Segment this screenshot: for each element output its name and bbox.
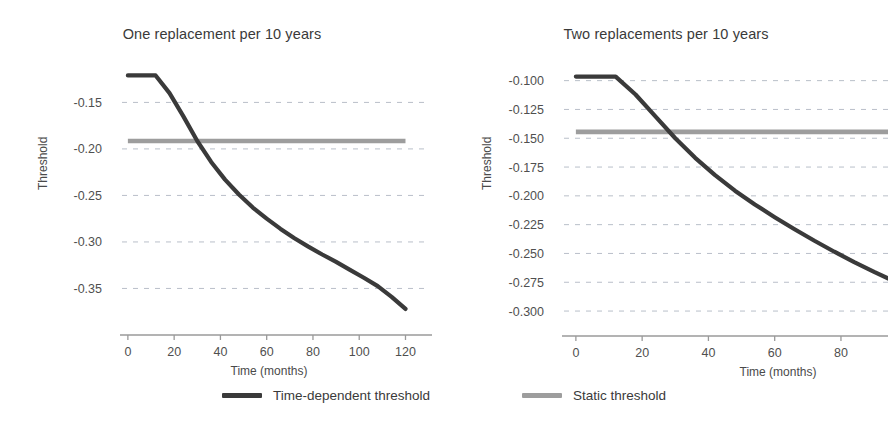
y-tick-label: -0.275 bbox=[509, 276, 544, 290]
line-swatch-dark-icon bbox=[222, 393, 262, 398]
x-tick-label: 60 bbox=[768, 346, 782, 360]
y-tick-label: -0.35 bbox=[74, 282, 103, 296]
y-tick-label: -0.125 bbox=[509, 103, 544, 117]
legend-row: Time-dependent threshold Static threshol… bbox=[0, 388, 888, 403]
legend-item-static: Static threshold bbox=[522, 388, 666, 403]
chart-panel-one-replacement: One replacement per 10 years Threshold -… bbox=[0, 0, 444, 380]
legend-item-time-dependent: Time-dependent threshold bbox=[222, 388, 430, 403]
x-axis-label-left: Time (months) bbox=[74, 364, 464, 378]
figure-root: One replacement per 10 years Threshold -… bbox=[0, 0, 888, 434]
y-tick-label: -0.300 bbox=[509, 305, 544, 319]
x-tick-label: 100 bbox=[349, 345, 370, 359]
y-tick-label: -0.225 bbox=[509, 218, 544, 232]
x-tick-label: 20 bbox=[167, 345, 181, 359]
y-tick-label: -0.20 bbox=[74, 142, 103, 156]
legend-label-static: Static threshold bbox=[573, 388, 666, 403]
x-tick-label: 40 bbox=[213, 345, 227, 359]
y-tick-label: -0.175 bbox=[509, 161, 544, 175]
x-tick-label: 20 bbox=[635, 346, 649, 360]
y-tick-label: -0.150 bbox=[509, 132, 544, 146]
plot-area-right: -0.100-0.125-0.150-0.175-0.200-0.225-0.2… bbox=[444, 0, 888, 380]
x-tick-label: 80 bbox=[306, 345, 320, 359]
panel-container: One replacement per 10 years Threshold -… bbox=[0, 0, 888, 380]
y-tick-label: -0.25 bbox=[74, 189, 103, 203]
chart-panel-two-replacements: Two replacements per 10 years Threshold … bbox=[444, 0, 888, 380]
y-tick-label: -0.200 bbox=[509, 189, 544, 203]
y-tick-label: -0.250 bbox=[509, 247, 544, 261]
y-tick-label: -0.100 bbox=[509, 74, 544, 88]
x-axis-label-right: Time (months) bbox=[516, 365, 888, 379]
x-tick-label: 0 bbox=[572, 346, 579, 360]
x-tick-label: 120 bbox=[395, 345, 416, 359]
x-tick-label: 0 bbox=[124, 345, 131, 359]
legend-label-time-dependent: Time-dependent threshold bbox=[273, 388, 430, 403]
y-tick-label: -0.30 bbox=[74, 235, 103, 249]
series-time-dependent-threshold bbox=[128, 75, 406, 308]
x-tick-label: 80 bbox=[834, 346, 848, 360]
x-tick-label: 40 bbox=[701, 346, 715, 360]
series-time-dependent-threshold bbox=[576, 77, 888, 311]
legend: Time-dependent threshold Static threshol… bbox=[0, 380, 888, 434]
line-swatch-gray-icon bbox=[522, 393, 562, 398]
plot-area-left: -0.15-0.20-0.25-0.30-0.35020406080100120 bbox=[0, 0, 444, 380]
x-tick-label: 60 bbox=[260, 345, 274, 359]
y-tick-label: -0.15 bbox=[74, 96, 103, 110]
